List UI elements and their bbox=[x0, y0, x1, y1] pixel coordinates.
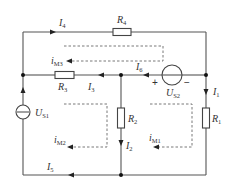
mesh-loop-m2 bbox=[64, 104, 107, 150]
label-i2: I2 bbox=[125, 140, 133, 152]
label-i3: I3 bbox=[87, 81, 95, 93]
label-us2-plus: + bbox=[152, 77, 158, 88]
node-center-bottom bbox=[119, 173, 123, 177]
label-us2: US2 bbox=[166, 87, 180, 99]
arrow-i5-icon bbox=[68, 173, 74, 178]
label-i1: I1 bbox=[212, 86, 220, 98]
mesh-loop-m3 bbox=[64, 46, 163, 64]
wires bbox=[23, 32, 206, 175]
label-r4: R4 bbox=[116, 14, 127, 26]
label-im3: iM3 bbox=[51, 55, 63, 67]
label-us1: US1 bbox=[35, 107, 49, 119]
arrow-im2-icon bbox=[67, 145, 73, 150]
label-im2: iM2 bbox=[54, 134, 66, 146]
node-right-middle bbox=[204, 73, 208, 77]
label-i5: I5 bbox=[46, 161, 54, 173]
circuit-diagram: I4 R4 iM3 R3 I3 I6 + − US2 I1 US1 R2 R1 … bbox=[0, 0, 230, 196]
arrow-i6-icon bbox=[143, 73, 149, 78]
label-i4: I4 bbox=[58, 17, 66, 29]
arrow-im1-icon bbox=[153, 145, 159, 150]
arrow-i3-icon bbox=[98, 73, 104, 78]
label-i6: I6 bbox=[135, 61, 143, 73]
arrow-im3-icon bbox=[66, 59, 72, 64]
node-center-middle bbox=[119, 73, 123, 77]
resistor-r2 bbox=[118, 108, 125, 128]
label-r1: R1 bbox=[211, 113, 221, 125]
label-r2: R2 bbox=[127, 113, 137, 125]
label-r3: R3 bbox=[57, 81, 67, 93]
label-im1: iM1 bbox=[149, 132, 161, 144]
voltage-source-us1 bbox=[16, 105, 30, 119]
arrow-us1-icon bbox=[21, 87, 26, 93]
arrow-i2-icon bbox=[119, 140, 124, 146]
label-us2-minus: − bbox=[184, 77, 190, 88]
resistor-r1 bbox=[203, 108, 210, 128]
arrow-i1-icon bbox=[204, 89, 209, 95]
resistor-r3 bbox=[55, 72, 74, 79]
resistor-r4 bbox=[113, 29, 131, 36]
node-left-middle bbox=[21, 73, 25, 77]
arrow-i4-icon bbox=[50, 30, 56, 35]
voltage-source-us2 bbox=[162, 65, 182, 85]
